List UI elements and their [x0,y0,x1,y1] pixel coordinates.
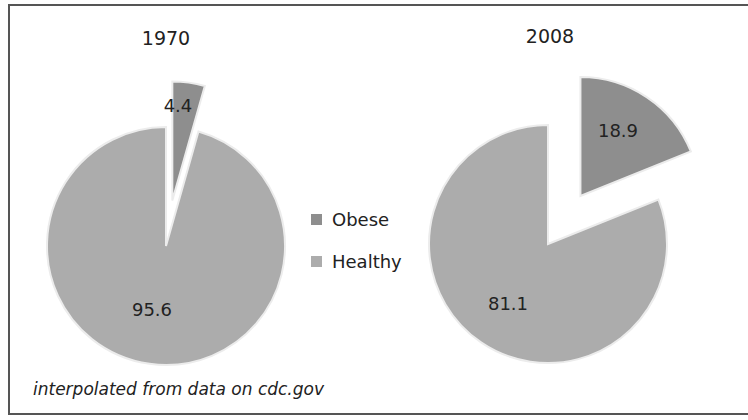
legend-label-obese: Obese [332,209,389,230]
pie-2008: 2008 18.9 81.1 [429,25,691,363]
legend: Obese Healthy [311,209,402,272]
pie-title-1970: 1970 [142,27,190,49]
legend-swatch-healthy [311,256,322,267]
pie-title-2008: 2008 [526,25,574,47]
data-label-healthy-1970: 95.6 [132,299,172,320]
source-note: interpolated from data on cdc.gov [33,379,324,399]
data-label-healthy-2008: 81.1 [488,293,528,314]
data-label-obese-2008: 18.9 [598,120,638,141]
pie-1970: 1970 4.4 95.6 [47,27,285,365]
legend-label-healthy: Healthy [332,251,402,272]
data-label-obese-1970: 4.4 [164,95,193,116]
legend-swatch-obese [311,214,322,225]
slice-healthy-1970 [47,127,285,365]
